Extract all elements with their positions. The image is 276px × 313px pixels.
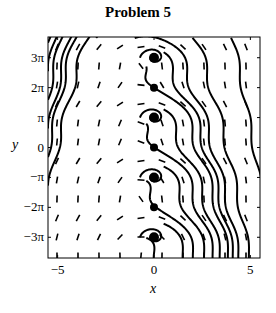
direction-segment: [161, 120, 163, 127]
y-tick-label: 0: [4, 140, 44, 156]
direction-segment: [138, 122, 145, 124]
direction-segment: [56, 82, 57, 89]
direction-segment: [246, 177, 247, 184]
direction-segment: [202, 101, 206, 107]
y-tick-label: π: [4, 110, 44, 126]
direction-segment: [246, 120, 247, 127]
direction-segment: [138, 218, 145, 219]
spiral-equilibrium: [149, 53, 159, 63]
direction-segment: [76, 101, 80, 107]
direction-segment: [119, 120, 122, 126]
trajectory: [48, 18, 55, 43]
x-axis-label: x: [150, 281, 156, 297]
direction-segment: [77, 82, 79, 89]
y-tick-label: 3π: [4, 50, 44, 66]
direction-segment: [182, 139, 183, 146]
direction-segment: [180, 216, 185, 221]
direction-segment: [78, 120, 79, 127]
direction-segment: [97, 101, 102, 106]
direction-segment: [98, 139, 99, 146]
direction-segment: [77, 234, 79, 241]
direction-segment: [56, 177, 57, 184]
trajectory: [193, 38, 252, 276]
y-tick-label: −3π: [4, 229, 44, 245]
y-tick-label: −2π: [4, 199, 44, 215]
direction-segment: [162, 196, 163, 203]
direction-segment: [98, 177, 100, 184]
direction-segment: [97, 44, 101, 49]
direction-segment: [56, 215, 59, 221]
direction-segment: [97, 234, 100, 240]
direction-segment: [56, 234, 58, 241]
direction-segment: [99, 63, 100, 70]
direction-segment: [138, 161, 145, 162]
direction-segment: [99, 196, 100, 203]
y-tick-label: −π: [4, 169, 44, 185]
x-tick-label: −5: [43, 262, 73, 278]
y-tick-label: 2π: [4, 80, 44, 96]
saddle-equilibrium: [150, 84, 158, 92]
direction-segment: [245, 215, 248, 222]
direction-segment: [138, 104, 145, 105]
direction-segment: [118, 82, 122, 88]
saddle-equilibrium: [150, 144, 158, 152]
direction-segment: [76, 158, 80, 164]
direction-segment: [223, 101, 226, 107]
direction-segment: [57, 139, 58, 146]
direction-segment: [57, 120, 58, 127]
direction-segment: [162, 63, 163, 70]
direction-segment: [78, 139, 79, 146]
direction-segment: [204, 139, 205, 146]
direction-segment: [119, 196, 120, 203]
direction-segment: [246, 82, 247, 89]
direction-segment: [77, 177, 79, 184]
direction-segment: [117, 216, 123, 220]
direction-segment: [203, 82, 204, 89]
direction-segment: [97, 215, 101, 220]
direction-segment: [245, 158, 248, 164]
spiral-equilibrium: [149, 232, 159, 242]
direction-segment: [182, 177, 184, 184]
trajectory: [48, 18, 77, 128]
direction-segment: [159, 46, 165, 49]
direction-segment: [223, 44, 226, 50]
saddle-equilibrium: [150, 203, 158, 211]
spiral-equilibrium: [149, 113, 159, 123]
x-tick-label: 5: [235, 262, 265, 278]
direction-segment: [138, 47, 145, 48]
trajectory: [96, 19, 106, 38]
direction-segment: [159, 160, 166, 162]
direction-segment: [180, 159, 185, 164]
direction-segment: [159, 217, 165, 220]
direction-segment: [224, 82, 225, 89]
direction-segment: [76, 44, 79, 50]
direction-segment: [138, 180, 145, 181]
direction-segment: [119, 139, 122, 145]
direction-segment: [245, 44, 248, 51]
direction-segment: [138, 85, 145, 86]
direction-segment: [138, 141, 145, 143]
direction-segment: [139, 63, 143, 69]
direction-segment: [182, 82, 184, 89]
direction-segment: [203, 177, 204, 184]
direction-segment: [76, 215, 79, 221]
direction-segment: [98, 120, 99, 127]
direction-segment: [97, 158, 102, 163]
direction-segment: [160, 82, 164, 88]
direction-segment: [117, 45, 123, 49]
direction-segment: [98, 82, 100, 89]
direction-segment: [117, 159, 123, 163]
direction-segment: [159, 103, 166, 105]
direction-segment: [118, 234, 123, 239]
spiral-equilibrium: [149, 172, 159, 182]
x-tick-label: 0: [139, 262, 169, 278]
direction-segment: [204, 120, 205, 127]
direction-segment: [202, 44, 206, 50]
direction-segment: [180, 45, 185, 50]
direction-segment: [223, 158, 226, 164]
direction-segment: [119, 63, 120, 70]
direction-segment: [139, 196, 143, 202]
direction-segment: [225, 120, 226, 127]
direction-segment: [118, 177, 122, 183]
direction-segment: [182, 120, 183, 127]
